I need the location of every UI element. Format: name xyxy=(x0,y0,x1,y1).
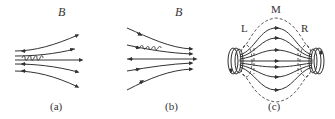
panel-a-field-label: B xyxy=(58,5,65,20)
panel-c-label-R: R xyxy=(301,22,308,34)
panel-b-spiral-trajectory xyxy=(140,46,161,50)
panel-b-field-lines xyxy=(127,28,196,90)
panel-a-field-lines xyxy=(15,35,82,87)
panel-a-caption: (a) xyxy=(50,100,62,112)
panel-b-field-label: B xyxy=(175,5,182,20)
panel-c-caption: (c) xyxy=(268,100,280,112)
panel-b-caption: (b) xyxy=(165,100,178,112)
panel-c-field-lines xyxy=(240,28,312,90)
panel-c-label-M: M xyxy=(271,3,281,15)
panel-c-label-L: L xyxy=(241,22,248,34)
